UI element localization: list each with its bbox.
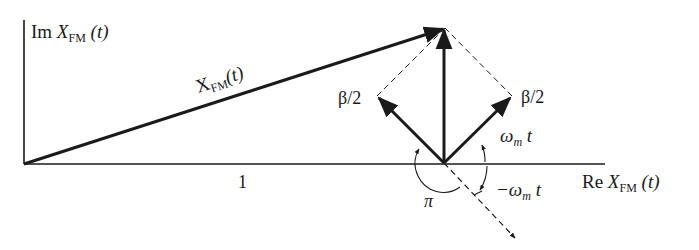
dashed-guide-right (445, 28, 512, 96)
main-phasor-arrow (24, 29, 443, 164)
sideband-left-arrow (379, 98, 444, 163)
imaginary-axis-label: Im XFM (t) (31, 21, 109, 45)
angle-arc-positive (482, 145, 485, 162)
angle-negative-label: −ωm t (496, 179, 542, 203)
sideband-right-label: β/2 (521, 87, 544, 107)
sideband-left-label: β/2 (338, 88, 361, 108)
real-axis-label: Re XFM (t) (582, 171, 660, 195)
angle-arc-negative (480, 166, 487, 190)
fm-phasor-diagram: Im XFM (t) XFM(t) 1 β/2 β/2 ωm t −ωm t π… (0, 0, 699, 250)
angle-tick (474, 191, 482, 195)
angle-pi-label: π (424, 191, 434, 211)
unit-length-label: 1 (238, 172, 247, 192)
angle-positive-label: ωm t (500, 125, 533, 149)
negative-angle-dashed-arrow (444, 163, 515, 238)
